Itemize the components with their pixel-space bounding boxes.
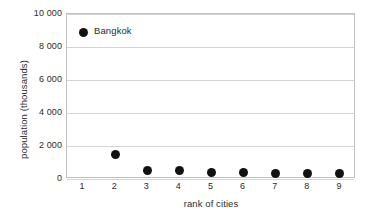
data-point-marker — [303, 169, 312, 178]
gridline — [67, 179, 354, 180]
data-point-marker — [111, 150, 120, 159]
x-tick-label: 4 — [176, 181, 181, 191]
x-tick-label: 9 — [336, 181, 341, 191]
data-point-marker — [79, 28, 88, 37]
x-tick-label: 3 — [144, 181, 149, 191]
data-point-marker — [207, 168, 216, 177]
bangkok-annotation-label: Bangkok — [94, 25, 132, 36]
gridline — [67, 14, 354, 15]
data-point-marker — [143, 166, 152, 175]
gridline — [67, 113, 354, 114]
data-point-marker — [239, 168, 248, 177]
x-tick-label: 2 — [112, 181, 117, 191]
plot-area — [66, 13, 355, 178]
x-tick-label: 6 — [240, 181, 245, 191]
x-tick-label: 5 — [208, 181, 213, 191]
gridline — [67, 47, 354, 48]
x-tick-label: 1 — [80, 181, 85, 191]
x-axis-tick-labels: 123456789 — [66, 181, 355, 195]
y-tick-label: 0 — [0, 173, 62, 183]
x-tick-label: 7 — [272, 181, 277, 191]
y-axis-tick-labels: 02 0004 0006 0008 00010 000 — [0, 13, 62, 178]
gridline — [67, 80, 354, 81]
y-tick-label: 8 000 — [0, 41, 62, 51]
y-tick-label: 6 000 — [0, 74, 62, 84]
data-point-marker — [335, 169, 344, 178]
scatter-chart: population (thousands) 02 0004 0006 0008… — [0, 0, 368, 219]
data-point-marker — [271, 169, 280, 178]
y-tick-label: 10 000 — [0, 8, 62, 18]
x-tick-label: 8 — [304, 181, 309, 191]
y-tick-label: 2 000 — [0, 140, 62, 150]
x-axis-title: rank of cities — [66, 198, 356, 209]
gridline — [67, 146, 354, 147]
y-tick-label: 4 000 — [0, 107, 62, 117]
data-point-marker — [175, 166, 184, 175]
